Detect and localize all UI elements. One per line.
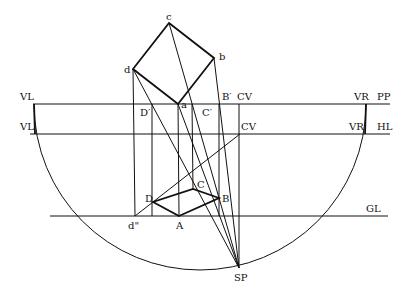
label-A: A: [175, 220, 184, 231]
ray-a-sp: [178, 104, 239, 268]
label-C: C: [197, 179, 205, 190]
label-gl: GL: [366, 203, 381, 214]
label-b-prime: B′: [222, 91, 232, 102]
label-c: c: [166, 11, 172, 22]
label-sp: SP: [234, 272, 248, 283]
vr-vertical: [365, 104, 366, 134]
label-pp: PP: [377, 91, 391, 102]
label-hl: HL: [377, 121, 393, 132]
label-d: d: [124, 64, 131, 75]
perspective-diagram: c b d a VL VL VR PP VR HL GL B′ CV CV C′…: [0, 0, 407, 299]
label-a: a: [181, 99, 187, 110]
label-D: D: [145, 193, 153, 204]
vertical-c-prime: [192, 104, 193, 189]
ray-b-sp: [214, 58, 239, 268]
label-d-double-prime: d": [128, 220, 139, 231]
label-cv-pp: CV: [237, 91, 253, 102]
label-b: b: [219, 51, 225, 62]
label-vr-pp: VR: [353, 91, 369, 102]
label-vl-hl: VL: [19, 121, 34, 132]
label-vl-pp: VL: [19, 91, 34, 102]
label-vr-hl: VR: [348, 121, 364, 132]
vertical-a: [178, 104, 179, 216]
label-cv-hl: CV: [241, 121, 257, 132]
label-B: B: [222, 193, 229, 204]
label-d-prime: D′: [140, 107, 151, 118]
ray-c-sp: [169, 23, 239, 268]
label-c-prime: C′: [202, 107, 213, 118]
vl-vertical: [34, 104, 35, 134]
vertical-d: [133, 69, 135, 216]
